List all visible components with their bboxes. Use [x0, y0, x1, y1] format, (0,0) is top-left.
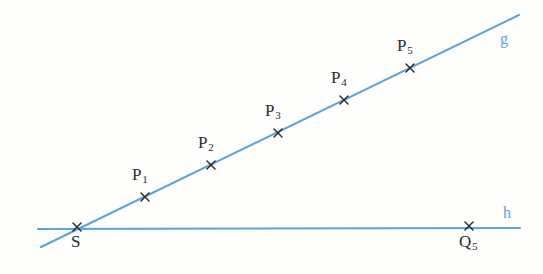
- markers-group: [73, 64, 473, 231]
- point-label-s: S: [71, 233, 81, 250]
- point-label-p1: P1: [132, 166, 147, 183]
- point-label-p3: P3: [265, 102, 280, 119]
- point-label-base: P: [198, 133, 208, 152]
- point-label-subscript: 3: [275, 109, 281, 121]
- point-label-subscript: 4: [341, 76, 347, 88]
- point-label-p2: P2: [198, 134, 213, 151]
- point-label-base: P: [132, 165, 142, 184]
- point-label-subscript: 5: [472, 240, 478, 252]
- point-label-subscript: 5: [407, 44, 413, 56]
- line-h: [38, 228, 520, 229]
- line-label-g: g: [500, 31, 508, 47]
- point-label-p5: P5: [397, 37, 412, 54]
- point-marker-p5: [406, 64, 414, 72]
- point-label-subscript: 2: [208, 141, 214, 153]
- point-marker-p4: [340, 96, 348, 104]
- point-label-subscript: 1: [142, 173, 148, 185]
- point-label-q5: Q5: [459, 233, 477, 250]
- geometry-figure: SP1P2P3P4P5Q5 g h: [0, 0, 543, 274]
- point-label-base: Q: [459, 232, 471, 251]
- point-label-base: P: [397, 36, 407, 55]
- line-label-h: h: [503, 205, 511, 221]
- point-label-base: P: [331, 68, 341, 87]
- point-label-p4: P4: [331, 69, 346, 86]
- point-label-base: P: [265, 101, 275, 120]
